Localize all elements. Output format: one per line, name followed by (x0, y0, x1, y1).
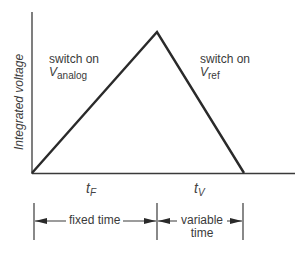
voltage-var: V (200, 65, 208, 79)
voltage-subscript: analog (57, 70, 87, 81)
voltage-subscript: ref (208, 70, 220, 81)
phase-label-ref: switch on Vref (200, 53, 250, 79)
voltage-var: V (49, 65, 57, 79)
y-axis-label: Integrated voltage (12, 54, 26, 150)
time-label-fixed: tF (86, 180, 96, 196)
phase-label-analog: switch on Vanalog (49, 53, 99, 79)
arrow-left-icon (35, 218, 47, 224)
arrow-right-icon (230, 218, 242, 224)
fixed-time-label: fixed time (66, 214, 123, 227)
variable-time-label: variable time (177, 214, 227, 240)
arrow-right-icon (144, 218, 156, 224)
waveform-diagram (0, 0, 305, 254)
arrow-left-icon (158, 218, 170, 224)
time-label-variable: tV (194, 180, 205, 196)
